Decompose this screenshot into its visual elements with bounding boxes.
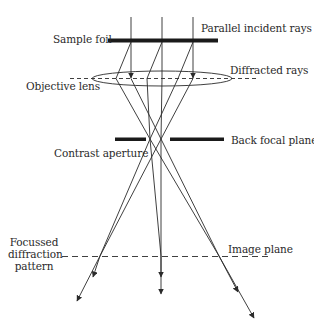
- diagram-canvas: Parallel incident rays Sample foil Diffr…: [0, 0, 314, 332]
- label-sample-foil: Sample foil: [53, 33, 112, 45]
- label-image-plane: Image plane: [228, 243, 293, 255]
- direct-rays-upper: [131, 42, 193, 78]
- rays-lower: [77, 79, 254, 319]
- label-focussed-line3: pattern: [8, 260, 60, 272]
- label-focussed-line2: diffraction: [8, 248, 60, 260]
- label-parallel-incident-rays: Parallel incident rays: [201, 22, 312, 34]
- label-back-focal-plane: Back focal plane: [231, 134, 314, 146]
- label-contrast-aperture: Contrast aperture: [54, 147, 148, 159]
- aperture-bar-right: [170, 138, 224, 142]
- aperture-bar-left: [115, 138, 146, 142]
- incident-rays: [131, 17, 193, 40]
- label-focussed-diffraction-pattern: Focussed diffraction pattern: [8, 236, 60, 272]
- ray-diagram-svg: [0, 0, 314, 332]
- label-diffracted-rays: Diffracted rays: [230, 64, 308, 76]
- sample-foil-bar: [108, 39, 218, 43]
- label-objective-lens: Objective lens: [26, 80, 100, 92]
- label-focussed-line1: Focussed: [8, 236, 60, 248]
- diffracted-rays-upper: [116, 42, 193, 79]
